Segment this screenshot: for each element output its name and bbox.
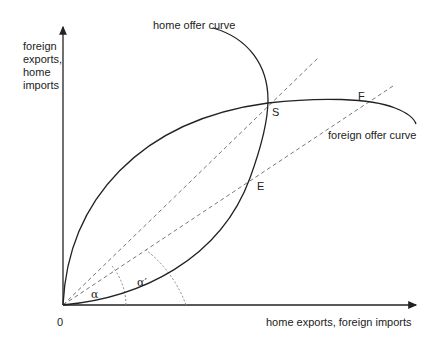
y-axis-label: foreign exports, home imports bbox=[23, 40, 83, 92]
origin-label: 0 bbox=[57, 316, 63, 329]
home-offer-curve-label: home offer curve bbox=[153, 19, 235, 32]
angle-arc-alpha bbox=[112, 266, 126, 305]
point-s-label: S bbox=[272, 106, 279, 119]
foreign-offer-curve-label: foreign offer curve bbox=[328, 129, 416, 142]
point-f-label: F bbox=[358, 90, 365, 103]
terms-of-trade-ray-2 bbox=[63, 86, 393, 305]
angle-alpha-label: α bbox=[91, 288, 98, 301]
y-axis-label-line: exports, bbox=[23, 53, 83, 66]
home-offer-curve bbox=[63, 28, 268, 305]
angle-alpha-prime-label: α′ bbox=[137, 276, 147, 289]
x-axis-label: home exports, foreign imports bbox=[266, 316, 412, 329]
angle-arc-alpha-prime bbox=[146, 250, 186, 305]
y-axis-label-line: home bbox=[23, 66, 83, 79]
terms-of-trade-ray-1 bbox=[63, 58, 318, 305]
y-axis-label-line: foreign bbox=[23, 40, 83, 53]
point-e-label: E bbox=[257, 180, 264, 193]
y-axis-label-line: imports bbox=[23, 79, 83, 92]
